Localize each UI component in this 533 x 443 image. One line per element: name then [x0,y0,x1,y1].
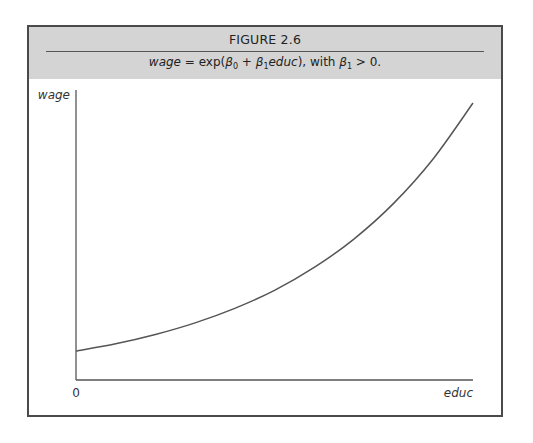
x-axis-label: educ [444,386,474,400]
series-line-wage [76,103,473,351]
y-axis-label: wage [38,88,70,102]
x-tick-label-0: 0 [72,386,80,400]
chart-svg: wage educ 0 [0,0,533,443]
